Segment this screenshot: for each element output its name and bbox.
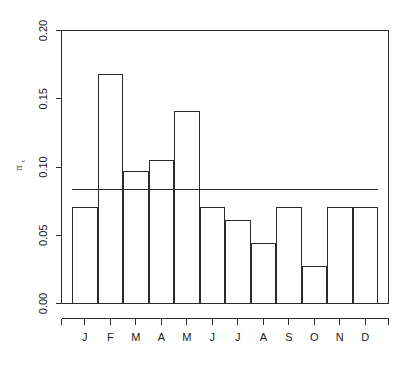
x-tick-label-9: O [310,331,319,343]
y-tick-label-1: 0.05 [37,225,49,246]
x-tick-label-2: M [131,331,140,343]
bar-M-4 [175,111,200,303]
bar-J-0 [73,208,98,304]
bar-F-1 [98,74,123,303]
y-tick-label-3: 0.15 [37,88,49,109]
x-tick-label-11: D [361,331,369,343]
bar-A-7 [251,243,276,303]
y-tick-labels: 0.00 0.05 0.10 0.15 0.20 [37,20,49,314]
bar-D-11 [353,208,378,304]
x-tick-label-1: F [107,331,114,343]
bar-chart-canvas: 0.00 0.05 0.10 0.15 0.20 π t JFMAMJJASON… [0,0,410,369]
bar-A-3 [149,160,174,303]
bar-O-9 [302,267,327,304]
x-tick-label-3: A [158,331,166,343]
bars-group [73,74,378,303]
bar-J-6 [226,220,251,303]
x-tick-label-6: J [235,331,241,343]
x-tick-label-8: S [285,331,292,343]
y-tick-label-4: 0.20 [37,20,49,41]
bar-N-10 [328,208,353,304]
y-axis-title-symbol: π [12,165,24,171]
x-tick-label-0: J [82,331,88,343]
y-tick-label-2: 0.10 [37,156,49,177]
x-tick-label-7: A [260,331,268,343]
y-tick-label-0: 0.00 [37,293,49,314]
y-tick-marks [56,31,62,304]
chart-figure: 0.00 0.05 0.10 0.15 0.20 π t JFMAMJJASON… [0,0,410,369]
bar-J-5 [200,208,225,304]
bar-M-2 [124,171,149,303]
y-axis-title-subscript: t [19,160,27,162]
bar-S-8 [277,208,302,304]
x-tick-label-10: N [336,331,344,343]
x-tick-label-5: J [210,331,216,343]
x-tick-label-4: M [182,331,191,343]
y-axis-title: π t [12,160,27,171]
x-tick-group: JFMAMJJASOND [82,319,369,344]
